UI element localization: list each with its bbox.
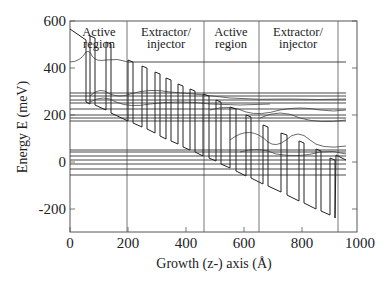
svg-text:600: 600 — [233, 235, 256, 251]
svg-text:800: 800 — [291, 235, 314, 251]
band-diagram-chart: Active region Extractor/ injector Active… — [0, 0, 392, 281]
svg-text:injector: injector — [279, 37, 318, 51]
conduction-band — [70, 29, 346, 218]
plot-frame — [70, 21, 357, 232]
svg-text:injector: injector — [147, 37, 186, 51]
svg-text:1000: 1000 — [345, 235, 375, 251]
svg-text:0: 0 — [59, 154, 67, 170]
svg-text:200: 200 — [117, 235, 140, 251]
svg-text:200: 200 — [44, 107, 67, 123]
svg-text:400: 400 — [175, 235, 198, 251]
y-axis-label: Energy E (meV) — [15, 81, 31, 174]
x-axis-label: Growth (z-) axis (Å) — [156, 256, 272, 272]
region-dividers — [127, 21, 338, 232]
x-axis — [70, 227, 302, 232]
svg-text:600: 600 — [44, 13, 67, 29]
x-tick-labels: 0 200 400 600 800 1000 — [66, 235, 375, 251]
svg-text:-200: -200 — [39, 201, 67, 217]
region-labels: Active region Extractor/ injector Active… — [82, 25, 323, 51]
svg-text:400: 400 — [44, 60, 67, 76]
svg-text:0: 0 — [66, 235, 74, 251]
svg-text:region: region — [215, 37, 248, 51]
y-tick-labels: 600 400 200 0 -200 — [39, 13, 67, 217]
